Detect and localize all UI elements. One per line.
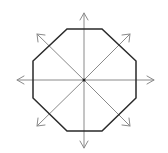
arrow-down-right-icon: [84, 80, 130, 126]
arrow-down-icon: [80, 80, 88, 148]
arrow-down-left-icon: [37, 80, 84, 126]
center-point: [83, 79, 86, 82]
arrow-left-icon: [17, 76, 84, 84]
arrow-up-left-icon: [37, 34, 84, 80]
arrow-up-right-icon: [84, 34, 130, 80]
octagon-diagram: [0, 0, 168, 153]
arrow-up-icon: [80, 13, 88, 80]
arrows: [17, 13, 154, 148]
arrow-right-icon: [84, 76, 154, 84]
